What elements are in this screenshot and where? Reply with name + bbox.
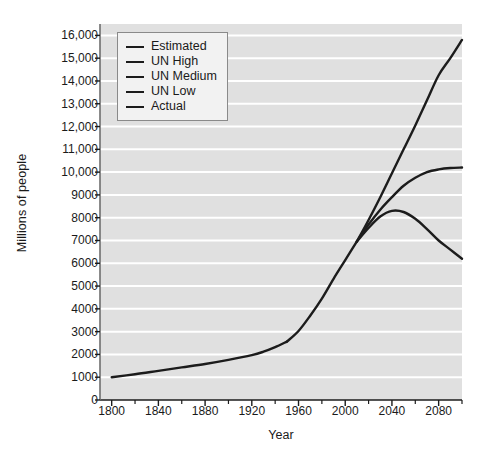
y-axis-tick-label: 7000 bbox=[44, 233, 98, 247]
y-axis-tick-label: 13,000 bbox=[44, 97, 98, 111]
y-axis-tick-label: 16,000 bbox=[44, 28, 98, 42]
legend-item: Actual bbox=[126, 99, 217, 114]
legend-item-label: UN Medium bbox=[151, 69, 217, 84]
legend-line-swatch bbox=[126, 91, 144, 93]
y-axis-tick-label: 14,000 bbox=[44, 74, 98, 88]
x-axis-tick-label: 2040 bbox=[379, 404, 406, 418]
y-axis-tick-label: 8000 bbox=[44, 211, 98, 225]
legend-line-swatch bbox=[126, 106, 144, 108]
y-axis-tick-label: 6000 bbox=[44, 256, 98, 270]
y-axis-tick-label: 1000 bbox=[44, 370, 98, 384]
y-axis-tick-label: 0 bbox=[44, 393, 98, 407]
legend-item: UN Low bbox=[126, 84, 217, 99]
legend-line-swatch bbox=[126, 46, 144, 48]
x-axis-tick-label: 1920 bbox=[238, 404, 265, 418]
y-axis-tick-label: 4000 bbox=[44, 302, 98, 316]
y-axis-tick-label: 12,000 bbox=[44, 120, 98, 134]
legend-item: UN Medium bbox=[126, 69, 217, 84]
legend-line-swatch bbox=[126, 76, 144, 78]
chart-legend: EstimatedUN HighUN MediumUN LowActual bbox=[117, 32, 228, 121]
legend-item-label: Estimated bbox=[151, 39, 207, 54]
x-axis-title: Year bbox=[100, 428, 462, 442]
population-projection-chart: 010002000300040005000600070008000900010,… bbox=[0, 0, 480, 465]
y-axis-tick-label: 3000 bbox=[44, 325, 98, 339]
y-axis-title: Millions of people bbox=[15, 113, 29, 293]
legend-item-label: Actual bbox=[151, 99, 186, 114]
x-axis-tick-label: 2000 bbox=[332, 404, 359, 418]
x-axis-tick-label: 1960 bbox=[285, 404, 312, 418]
x-axis-tick-label: 2080 bbox=[425, 404, 452, 418]
x-axis-tick-label: 1840 bbox=[145, 404, 172, 418]
legend-line-swatch bbox=[126, 61, 144, 63]
legend-item-label: UN High bbox=[151, 54, 198, 69]
y-axis-tick-label: 2000 bbox=[44, 347, 98, 361]
y-axis-tick-labels: 010002000300040005000600070008000900010,… bbox=[44, 0, 98, 465]
y-axis-tick-label: 11,000 bbox=[44, 142, 98, 156]
y-axis-tick-label: 9000 bbox=[44, 188, 98, 202]
y-axis-tick-label: 5000 bbox=[44, 279, 98, 293]
x-axis-tick-label: 1880 bbox=[192, 404, 219, 418]
legend-item: UN High bbox=[126, 54, 217, 69]
x-axis-tick-label: 1800 bbox=[98, 404, 125, 418]
legend-item: Estimated bbox=[126, 39, 217, 54]
legend-item-label: UN Low bbox=[151, 84, 195, 99]
y-axis-tick-label: 15,000 bbox=[44, 51, 98, 65]
y-axis-tick-label: 10,000 bbox=[44, 165, 98, 179]
